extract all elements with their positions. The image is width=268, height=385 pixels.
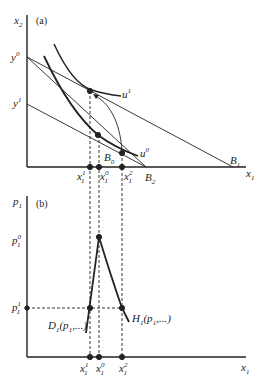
budget-line-b0 [27,57,146,167]
tick-label-y0: y0 [10,50,20,63]
demand-curve-d1 [86,237,99,333]
point-u0-tangency [95,132,100,137]
point-x1-2-axis [119,164,124,169]
axis-label-x1-b: x1 [240,361,249,376]
point-p1-1-axis [25,306,29,310]
tick-label-x1-1-b: x11 [79,361,88,377]
indifference-curve-u1 [54,44,121,96]
line-label-b2: B2 [145,171,156,186]
axis-label-p1: p1 [12,195,22,210]
line-label-b0: B0 [104,151,115,166]
axis-label-x1-a: x1 [245,167,254,182]
point-d1-p1-1 [87,305,92,310]
tick-label-p1-1: p11 [11,300,21,316]
panel-b-label: (b) [36,198,48,210]
tick-label-x1-0-a: x01 [99,169,109,185]
point-x1-1-axis-b [87,354,92,359]
point-x1-0-axis-b [96,354,101,359]
panel-a-label: (a) [36,15,47,27]
point-u1-tangency [87,88,92,93]
tick-label-y1: y1 [12,96,21,109]
point-p1-0-peak [96,234,101,239]
point-u0-compensated [119,150,124,155]
diagram-canvas: (a) x2 x1 y0 y1 u1 u0 B0 B1 B2 x11 x01 x… [0,0,268,385]
point-x1-2-axis-b [119,354,124,359]
indifference-curve-u0 [44,56,138,156]
compensated-budget-line [24,46,136,158]
tick-label-x1-2-b: x21 [118,361,128,377]
tick-label-x1-1-a: x11 [76,169,85,185]
tick-label-p1-0: p01 [11,233,22,249]
point-x1-0-axis [96,164,101,169]
curve-label-d1: D1(p1,...) [47,319,87,334]
axis-label-x2: x2 [13,14,23,29]
point-x1-1-axis [87,164,92,169]
curve-label-u0: u0 [140,146,150,159]
budget-line-b2 [27,104,146,167]
tick-label-x1-0-b: x01 [95,361,105,377]
budget-line-b1 [27,57,233,167]
panel-a [24,15,246,356]
point-h1-p1-1 [119,305,124,310]
tick-label-x1-2-a: x21 [123,169,133,185]
panel-b [25,196,246,360]
curve-label-h1: H1(p1,...) [131,312,171,327]
curve-label-u1: u1 [122,87,131,100]
